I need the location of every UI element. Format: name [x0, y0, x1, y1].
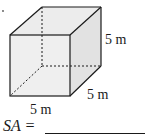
depth-label: 5 m: [87, 88, 108, 102]
marker-dot: [2, 10, 4, 12]
width-label: 5 m: [30, 103, 51, 117]
cube-front-face: [10, 35, 70, 96]
surface-area-prompt: SA =: [3, 118, 35, 134]
height-label: 5 m: [105, 33, 126, 47]
answer-blank[interactable]: [45, 133, 145, 134]
